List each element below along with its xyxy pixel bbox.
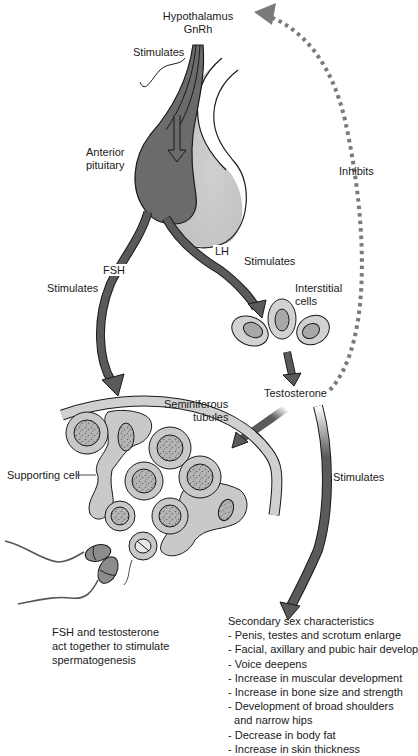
gnrh-label: GnRh xyxy=(162,23,234,36)
secondary-sex-heading: Secondary sex characteristics xyxy=(228,614,418,628)
stimulates-lh-label: Stimulates xyxy=(244,255,295,268)
testosterone-label: Testosterone xyxy=(264,387,327,400)
supporting-cell-label: Supporting cell xyxy=(7,469,80,482)
list-item: - Increase in skin thickness xyxy=(228,742,418,756)
secondary-sex-characteristics: Secondary sex characteristics - Penis, t… xyxy=(228,614,418,756)
fsh-arrow xyxy=(100,212,148,396)
secondary-sex-list: - Penis, testes and scrotum enlarge - Fa… xyxy=(228,628,418,756)
testosterone-production-arrow xyxy=(283,352,301,386)
anterior-pituitary-label: Anterior xyxy=(86,146,125,159)
spermatogenesis-note: FSH and testosterone act together to sti… xyxy=(52,625,169,667)
interstitial-cells xyxy=(227,299,335,352)
list-item: - Voice deepens xyxy=(228,657,418,671)
list-item: - Facial, axillary and pubic hair develo… xyxy=(228,642,418,656)
hypothalamus-label: Hypothalamus xyxy=(162,10,234,23)
stimulates-secondary-label: Stimulates xyxy=(333,471,384,484)
testosterone-to-secondary-arrow xyxy=(280,406,327,620)
anterior-pituitary xyxy=(135,45,204,224)
spermatogenesis-note-line-2: act together to stimulate xyxy=(52,639,169,653)
list-item: - Penis, testes and scrotum enlarge xyxy=(228,628,418,642)
spermatogenesis-note-line-1: FSH and testosterone xyxy=(52,625,169,639)
seminiferous-tubules-label-2: tubules xyxy=(193,411,228,424)
sperm-cells xyxy=(5,541,122,604)
anterior-pituitary-label-2: pituitary xyxy=(86,159,125,172)
inhibits-label: Inhibits xyxy=(339,165,374,178)
interstitial-cells-label-2: cells xyxy=(295,295,317,308)
stimulates-gnrh-label: Stimulates xyxy=(133,46,184,59)
list-item: - Increase in muscular development xyxy=(228,671,418,685)
lh-label: LH xyxy=(213,245,231,257)
list-item: - Increase in bone size and strength xyxy=(228,685,418,699)
list-item: and narrow hips xyxy=(228,713,418,727)
spermatogenesis-note-line-3: spermatogenesis xyxy=(52,653,169,667)
list-item: - Development of broad shoulders xyxy=(228,699,418,713)
interstitial-cells-label: Interstitial xyxy=(295,282,342,295)
fsh-label: FSH xyxy=(101,264,127,276)
stimulates-fsh-label: Stimulates xyxy=(47,282,98,295)
list-item: - Decrease in body fat xyxy=(228,728,418,742)
seminiferous-tubules-label: Seminiferous xyxy=(164,398,228,411)
